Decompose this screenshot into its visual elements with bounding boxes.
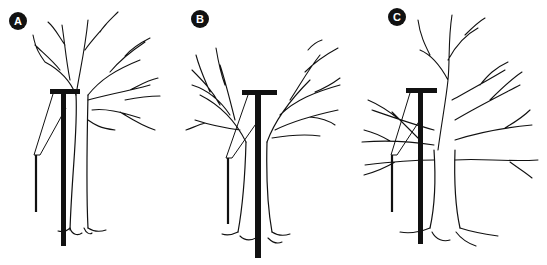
tree-illustration-b [180, 0, 360, 265]
tree-illustration-a [0, 0, 180, 265]
panel-b: B [180, 0, 360, 265]
panel-c: C [360, 0, 547, 265]
tree-illustration-c [360, 0, 547, 265]
panel-a: A [0, 0, 180, 265]
